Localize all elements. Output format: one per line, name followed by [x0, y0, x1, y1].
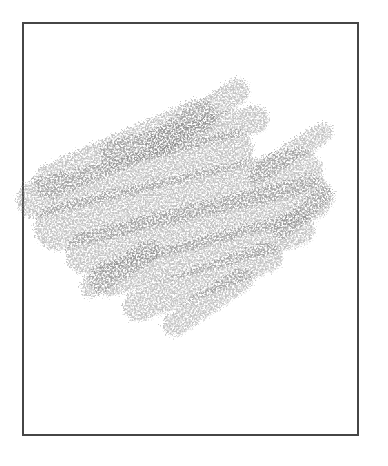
- picture-frame: [22, 22, 359, 436]
- scanned-page: [0, 0, 388, 466]
